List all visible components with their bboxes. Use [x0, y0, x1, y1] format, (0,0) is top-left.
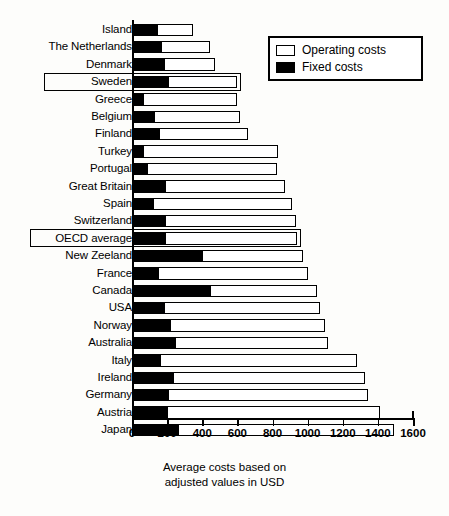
stacked-bar: [132, 180, 285, 193]
bar-row: OECD average: [0, 231, 449, 248]
stacked-bar: [132, 163, 277, 176]
stacked-bar: [132, 24, 193, 37]
category-label: Italy: [4, 354, 132, 367]
x-tick: [378, 418, 380, 426]
bar-segment-fixed-costs: [133, 373, 174, 384]
bar-row: Australia: [0, 335, 449, 352]
bar-row: Italy: [0, 353, 449, 370]
stacked-bar: [132, 302, 320, 315]
x-tick-label: 1600: [400, 427, 426, 439]
stacked-bar: [132, 406, 380, 419]
category-label: Sweden: [4, 75, 132, 88]
category-label: Great Britain: [4, 180, 132, 193]
stacked-bar: [132, 93, 237, 106]
category-label: Switzerland: [4, 214, 132, 227]
bar-segment-fixed-costs: [133, 146, 144, 157]
category-label: Norway: [4, 319, 132, 332]
bar-row: Spain: [0, 196, 449, 213]
category-label: New Zeeland: [4, 249, 132, 262]
stacked-bar: [132, 267, 308, 280]
category-label: OECD average: [4, 232, 132, 245]
x-tick: [308, 418, 310, 426]
x-tick-label: 200: [158, 427, 177, 439]
category-label: Austria: [4, 406, 132, 419]
bar-segment-fixed-costs: [133, 355, 161, 366]
category-label: Greece: [4, 93, 132, 106]
stacked-bar: [132, 145, 278, 158]
bar-row: Austria: [0, 405, 449, 422]
stacked-bar: [132, 198, 292, 211]
bar-segment-fixed-costs: [133, 59, 165, 70]
legend-item-fixed-costs: Fixed costs: [276, 59, 415, 76]
bar-row: New Zeeland: [0, 248, 449, 265]
bar-row: Great Britain: [0, 179, 449, 196]
x-tick: [273, 418, 275, 426]
category-label: France: [4, 267, 132, 280]
category-label: Denmark: [4, 58, 132, 71]
x-tick: [413, 418, 415, 426]
bar-segment-fixed-costs: [133, 216, 166, 227]
x-tick: [202, 418, 204, 426]
bar-segment-fixed-costs: [133, 94, 144, 105]
stacked-bar: [132, 215, 296, 228]
bar-row: Ireland: [0, 370, 449, 387]
bar-segment-fixed-costs: [133, 286, 211, 297]
x-tick: [343, 418, 345, 426]
bar-chart: IslandThe NetherlandsDenmarkSwedenGreece…: [0, 0, 449, 516]
stacked-bar: [132, 76, 237, 89]
bar-row: Finland: [0, 126, 449, 143]
category-label: Ireland: [4, 371, 132, 384]
stacked-bar: [132, 128, 248, 141]
chart-legend: Operating costs Fixed costs: [268, 36, 423, 81]
x-tick-label: 1200: [330, 427, 356, 439]
category-label: Turkey: [4, 145, 132, 158]
bar-row: Germany: [0, 387, 449, 404]
bar-segment-fixed-costs: [133, 42, 162, 53]
category-label: Germany: [4, 388, 132, 401]
x-tick-label: 0: [129, 427, 135, 439]
x-tick: [237, 418, 239, 426]
bar-row: USA: [0, 300, 449, 317]
bar-row: Turkey: [0, 144, 449, 161]
category-label: Spain: [4, 197, 132, 210]
bar-segment-fixed-costs: [133, 303, 165, 314]
x-tick: [132, 418, 134, 426]
bar-segment-fixed-costs: [133, 268, 159, 279]
x-tick-label: 400: [193, 427, 212, 439]
category-label: Japan: [4, 423, 132, 436]
x-axis-title-line-2: adjusted values in USD: [0, 475, 449, 490]
category-label: The Netherlands: [4, 40, 132, 53]
bar-segment-fixed-costs: [133, 233, 166, 244]
x-tick: [167, 418, 169, 426]
x-tick-label: 600: [228, 427, 247, 439]
category-label: Canada: [4, 284, 132, 297]
stacked-bar: [132, 337, 328, 350]
stacked-bar: [132, 389, 368, 402]
stacked-bar: [132, 58, 215, 71]
bar-row: France: [0, 266, 449, 283]
bar-segment-fixed-costs: [133, 181, 166, 192]
x-tick-label: 800: [263, 427, 282, 439]
bar-row: Belgium: [0, 109, 449, 126]
x-axis-title: Average costs based on adjusted values i…: [0, 460, 449, 490]
stacked-bar: [132, 250, 303, 263]
bar-row: Canada: [0, 283, 449, 300]
bar-segment-fixed-costs: [133, 77, 169, 88]
legend-label-fixed-costs: Fixed costs: [302, 61, 363, 74]
bar-segment-fixed-costs: [133, 390, 169, 401]
bar-row: Switzerland: [0, 213, 449, 230]
legend-item-operating-costs: Operating costs: [276, 42, 415, 59]
stacked-bar: [132, 41, 210, 54]
legend-label-operating-costs: Operating costs: [302, 44, 386, 57]
stacked-bar: [132, 372, 365, 385]
bar-row: Portugal: [0, 161, 449, 178]
stacked-bar: [132, 232, 297, 245]
stacked-bar: [132, 354, 357, 367]
bar-segment-fixed-costs: [133, 338, 176, 349]
category-label: Portugal: [4, 162, 132, 175]
category-label: USA: [4, 301, 132, 314]
bar-segment-fixed-costs: [133, 164, 148, 175]
filled-square-icon: [276, 62, 295, 73]
x-tick-label: 1400: [365, 427, 391, 439]
category-label: Belgium: [4, 110, 132, 123]
